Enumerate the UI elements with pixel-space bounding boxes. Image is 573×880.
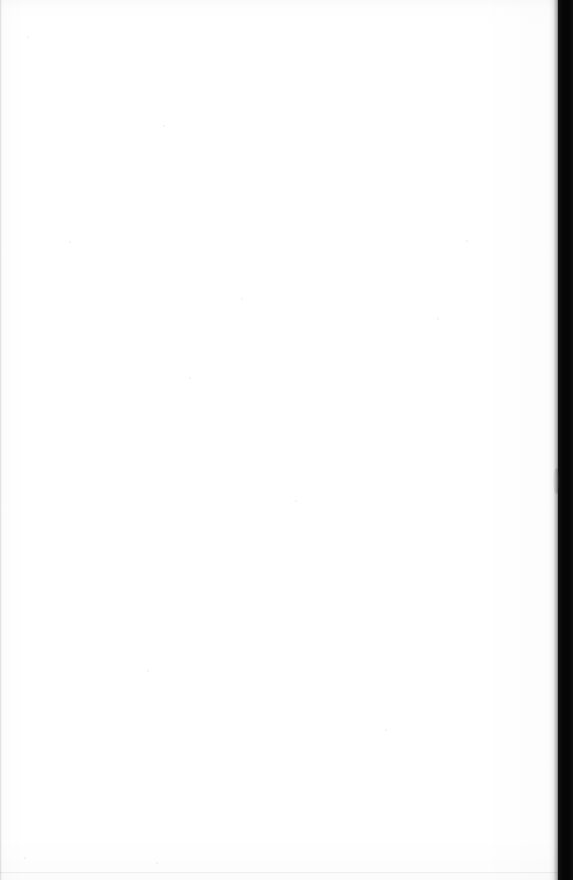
scan-speck	[385, 729, 387, 731]
scan-speck	[27, 36, 29, 38]
scan-speck	[24, 857, 26, 859]
scan-speck	[466, 240, 468, 242]
scan-speck	[163, 125, 165, 127]
scan-speck	[69, 241, 71, 243]
page-sheet	[0, 0, 558, 880]
scan-speck	[156, 862, 158, 864]
scan-speck	[189, 377, 191, 379]
scanned-page-canvas	[0, 0, 573, 880]
scan-speck	[437, 318, 439, 320]
page-edge-curl-artifact	[553, 468, 559, 494]
scanner-gutter-band	[558, 0, 573, 880]
bottom-edge-rule	[0, 872, 558, 874]
scan-speck	[241, 298, 243, 300]
scan-speck	[295, 500, 297, 502]
scan-speck	[147, 670, 149, 672]
left-edge-rule	[0, 0, 2, 880]
